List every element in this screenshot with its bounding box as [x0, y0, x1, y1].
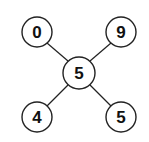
node-label: 9 [116, 23, 125, 42]
node-label: 0 [32, 23, 41, 42]
edge-bottom-left [47, 85, 68, 106]
number-tree-diagram: 0 9 5 4 5 [0, 0, 149, 142]
node-center: 5 [63, 57, 95, 89]
node-bottom-right: 5 [106, 102, 136, 132]
node-label: 5 [74, 64, 83, 83]
node-top-right: 9 [106, 17, 136, 47]
edge-bottom-right [90, 85, 111, 106]
node-label: 4 [32, 108, 42, 127]
node-top-left: 0 [22, 17, 52, 47]
edge-top-left [47, 43, 68, 61]
node-label: 5 [116, 108, 125, 127]
edge-top-right [90, 43, 111, 61]
node-bottom-left: 4 [22, 102, 52, 132]
